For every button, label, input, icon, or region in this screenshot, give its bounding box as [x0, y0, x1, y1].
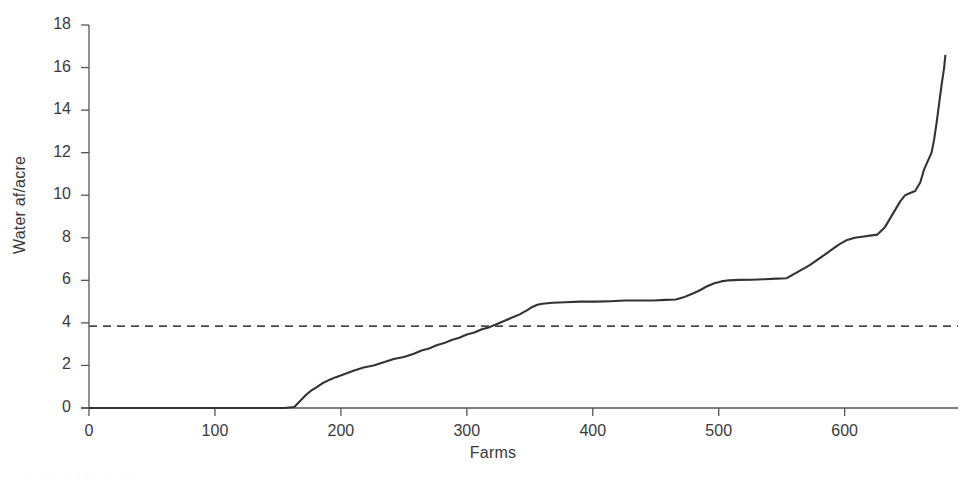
chart-figure: Water af/acre Farms 024681012141618 0100… — [0, 0, 966, 482]
axis-tick-marks — [81, 25, 845, 416]
axis-spines — [81, 25, 958, 408]
plot-area — [0, 0, 966, 482]
data-curve — [89, 55, 945, 408]
page-bleed-strip: · ·· · ··· · ·· — [0, 473, 966, 482]
bleed-text: · ·· · ··· · ·· — [28, 473, 134, 479]
data-series-layer — [89, 55, 958, 408]
